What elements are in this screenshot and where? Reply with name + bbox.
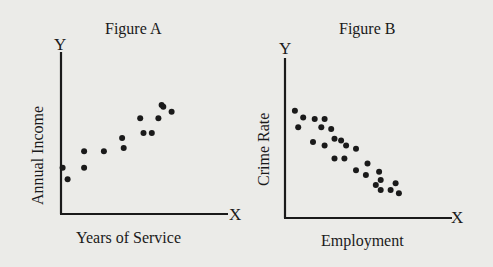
figure-a: Figure A Y X Annual Income Years of Serv…: [0, 0, 246, 267]
data-point: [295, 124, 301, 130]
data-point: [328, 126, 334, 132]
figure-b-points: [292, 108, 402, 197]
data-point: [310, 139, 316, 145]
data-point: [332, 156, 338, 162]
data-point: [353, 167, 359, 173]
data-point: [312, 116, 318, 122]
data-point: [396, 190, 402, 196]
data-point: [378, 187, 384, 193]
data-point: [322, 142, 328, 148]
data-point: [332, 136, 338, 142]
figure-a-plot-area: [0, 0, 246, 267]
data-point: [393, 180, 399, 186]
data-point: [373, 182, 379, 188]
data-point: [338, 137, 344, 143]
data-point: [160, 104, 166, 110]
data-point: [376, 169, 382, 175]
data-point: [363, 172, 369, 178]
data-point: [65, 176, 71, 182]
data-point: [292, 108, 298, 114]
figure-a-points: [60, 102, 175, 182]
data-point: [341, 156, 347, 162]
data-point: [81, 148, 87, 154]
data-point: [155, 115, 161, 121]
data-point: [60, 165, 66, 171]
data-point: [101, 148, 107, 154]
data-point: [81, 165, 87, 171]
data-point: [119, 135, 125, 141]
data-point: [378, 177, 384, 183]
data-point: [365, 161, 371, 167]
data-point: [300, 114, 306, 120]
data-point: [322, 116, 328, 122]
data-point: [353, 146, 359, 152]
figure-b: Figure B Y X Crime Rate Employment: [246, 0, 493, 267]
data-point: [169, 109, 175, 115]
data-point: [343, 142, 349, 148]
data-point: [137, 115, 143, 121]
data-point: [388, 187, 394, 193]
data-point: [318, 124, 324, 130]
data-point: [121, 145, 127, 151]
figure-b-plot-area: [246, 0, 493, 267]
data-point: [149, 130, 155, 136]
data-point: [141, 130, 147, 136]
